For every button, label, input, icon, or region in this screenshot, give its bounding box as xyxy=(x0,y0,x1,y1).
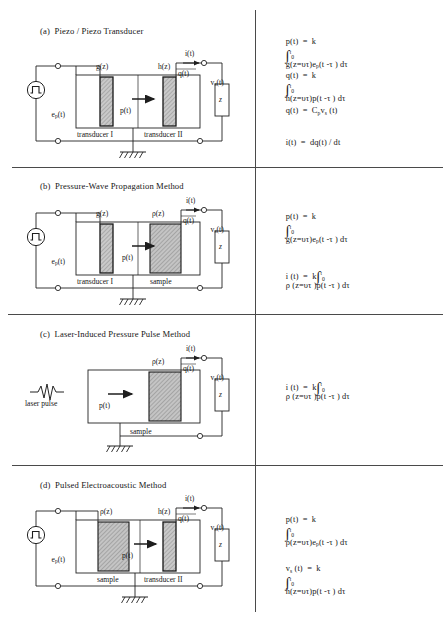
panel-b-block1-caption: transducer I xyxy=(77,278,113,286)
panel-d-source-label: ep(t) xyxy=(44,548,65,571)
panel-a-current-label: i(t) xyxy=(185,50,194,58)
eq-a2-lhs: q(t) = k xyxy=(286,71,316,80)
panel-d-source-sub: p xyxy=(55,558,58,564)
panel-d-voltage-sub: s xyxy=(214,526,216,532)
eq-a2-lower: 0 xyxy=(291,88,294,94)
eq-b1-lower: 0 xyxy=(291,229,294,235)
panel-b-block2-top-label: ρ(z) xyxy=(152,210,164,218)
panel-a-voltage-label: vs(t) xyxy=(203,71,224,94)
eq-b1-rhs: g(z=υτ)e xyxy=(286,235,316,244)
panel-a-arrow-label: p(t) xyxy=(120,107,131,115)
eq-a3-lhs: q(t) = C xyxy=(286,106,318,115)
panel-a-block1-top-label: g(z) xyxy=(96,63,108,71)
panel-d-impedance-label: z xyxy=(219,541,222,548)
eq-c1-lower: 0 xyxy=(322,387,325,393)
panel-a-impedance-label: z xyxy=(219,96,222,103)
panel-d-block2-caption: transducer II xyxy=(144,576,183,584)
panel-a-block1-caption: transducer I xyxy=(77,131,113,139)
panel-c-charge-label: q(t) xyxy=(183,365,194,373)
panel-c-impedance-label: z xyxy=(219,391,222,398)
panel-c-block1-top-label: ρ(z) xyxy=(152,358,164,366)
figure-page: (a) Piezo / Piezo Transducer g(z) h(z) q… xyxy=(0,0,443,619)
panel-d-block2-top-label: h(z) xyxy=(158,508,170,516)
panel-c-voltage-tail: (t) xyxy=(217,373,224,382)
panel-a-charge-label: q(t) xyxy=(178,70,189,78)
panel-a-equation-4: i(t) = dq(t) / dt xyxy=(277,131,340,156)
panel-a-block2-top-label: h(z) xyxy=(158,63,170,71)
panel-b-charge-label: q(t) xyxy=(183,217,194,225)
panel-c-block1-caption: sample xyxy=(130,428,152,436)
panel-c-current-label: i(t) xyxy=(186,345,195,353)
panel-d-voltage-tail: (t) xyxy=(217,523,224,532)
eq-d1-rhs-tail: (t -τ ) dτ xyxy=(319,538,348,547)
panel-c-arrow-label: p(t) xyxy=(99,402,110,410)
panel-b-block2-caption: sample xyxy=(150,278,172,286)
panel-d-source-tail: (t) xyxy=(58,555,65,564)
eq-c1-lhs: i (t) = k xyxy=(286,383,317,392)
panel-a-source-label: ep(t) xyxy=(44,103,65,126)
panel-d-equation-2: vs (t) = k ∫t0 h(z=υτ)p(t -τ ) dτ xyxy=(277,557,345,605)
panel-d-block1-caption: sample xyxy=(97,576,119,584)
panel-a-voltage-sub: s xyxy=(214,81,216,87)
eq-b1-lhs: p(t) = k xyxy=(286,212,316,221)
panel-b-arrow-label: p(t) xyxy=(122,254,133,262)
panel-b-source-tail: (t) xyxy=(58,257,65,266)
panel-b-voltage-sub: s xyxy=(214,228,216,234)
panel-c-source-label: laser pulse xyxy=(25,400,57,408)
panel-b-equation-2: i (t) = k∫t0 ρ (z=υτ )p(t -τ ) dτ xyxy=(277,260,350,299)
panel-c-title: (c) Laser-Induced Pressure Pulse Method xyxy=(40,330,190,339)
panel-a-voltage-tail: (t) xyxy=(217,78,224,87)
panel-b-voltage-tail: (t) xyxy=(217,225,224,234)
eq-d2-lower: 0 xyxy=(291,581,294,587)
panel-c-voltage-label: vs(t) xyxy=(203,366,224,389)
panel-b-title: (b) Pressure-Wave Propagation Method xyxy=(40,182,184,191)
eq-d1-rhs: ρ(z=υτ)e xyxy=(286,538,316,547)
eq-a3-mid-sub: s xyxy=(325,110,327,116)
eq-d1-lower: 0 xyxy=(291,532,294,538)
panel-d-title: (d) Pulsed Electroacoustic Method xyxy=(40,481,166,490)
panel-b-voltage-label: vs(t) xyxy=(203,218,224,241)
panel-b-source-sub: p xyxy=(55,260,58,266)
eq-b1-rhs-sub: p xyxy=(316,238,319,244)
panel-a-equation-3: q(t) = Cpvs (t) xyxy=(277,99,337,124)
panel-b-current-label: i(t) xyxy=(186,197,195,205)
panel-a-title: (a) Piezo / Piezo Transducer xyxy=(40,27,143,36)
panel-c-voltage-sub: s xyxy=(214,376,216,382)
panel-a-source-tail: (t) xyxy=(58,110,65,119)
eq-a1-lhs: p(t) = k xyxy=(286,37,316,46)
eq-d1-rhs-sub: p xyxy=(316,541,319,547)
eq-d2-rhs: h(z=υτ)p(t -τ ) dτ xyxy=(286,587,346,596)
panel-b-equation-1: p(t) = k ∫t0 g(z=υτ)ep(t -τ ) dτ xyxy=(277,205,348,253)
eq-a4-lhs: i(t) = dq(t) / dt xyxy=(286,138,341,147)
panel-a-block2-caption: transducer II xyxy=(144,131,183,139)
panel-c-equation-1: i (t) = k∫t0 ρ (z=υτ )p(t -τ ) dτ xyxy=(277,371,350,410)
panel-d-block1-top-label: ρ(z) xyxy=(100,508,112,516)
panel-c-circuit xyxy=(30,355,229,452)
eq-a1-lower: 0 xyxy=(291,54,294,60)
panel-d-equation-1: p(t) = k ∫t0 ρ(z=υτ)ep(t -τ ) dτ xyxy=(277,508,348,556)
panel-d-voltage-label: vs(t) xyxy=(203,516,224,539)
panel-a-source-sub: p xyxy=(55,113,58,119)
eq-a3-tail: (t) xyxy=(327,106,337,115)
panel-b-impedance-label: z xyxy=(219,243,222,250)
panel-d-current-label: i(t) xyxy=(185,495,194,503)
eq-b2-lower: 0 xyxy=(322,276,325,282)
eq-b2-lhs: i (t) = k xyxy=(286,272,317,281)
panel-b-block1-top-label: g(z) xyxy=(96,210,108,218)
eq-d2-lhs: (t) = k xyxy=(292,564,320,573)
panel-d-charge-label: q(t) xyxy=(178,515,189,523)
eq-b1-rhs-tail: (t -τ ) dτ xyxy=(319,235,348,244)
panel-b-source-label: ep(t) xyxy=(44,250,65,273)
panel-d-arrow-label: p(t) xyxy=(122,552,133,560)
eq-d1-lhs: p(t) = k xyxy=(286,515,316,524)
